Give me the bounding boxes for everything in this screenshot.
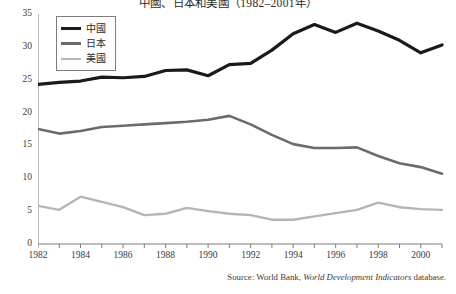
legend-item-japan: 日本 (61, 36, 110, 51)
x-tick-label: 1998 (363, 251, 393, 261)
source-prefix: Source: World Bank, (227, 272, 301, 282)
x-tick-label: 1986 (108, 251, 138, 261)
x-tick-label: 1992 (236, 251, 266, 261)
x-tick-label: 1996 (321, 251, 351, 261)
source-suffix: database. (414, 272, 446, 282)
x-tick-label: 1984 (66, 251, 96, 261)
legend-label-japan: 日本 (86, 39, 106, 49)
legend-item-usa: 美國 (61, 51, 110, 66)
legend-item-china: 中國 (61, 21, 110, 36)
legend-label-china: 中國 (86, 24, 106, 34)
x-tick-label: 2000 (406, 251, 436, 261)
chart-page: 中國、日本和美國（1982–2001年） 05101520253035 1982… (0, 0, 456, 294)
legend-label-usa: 美國 (86, 54, 106, 64)
x-tick-label: 1982 (23, 251, 53, 261)
x-tick-label: 1994 (278, 251, 308, 261)
legend-swatch-usa (61, 58, 81, 60)
source-publication: World Development Indicators (303, 272, 411, 282)
source-note: Source: World Bank, World Development In… (0, 272, 446, 282)
chart-legend: 中國 日本 美國 (56, 16, 116, 71)
x-tick-label: 1990 (193, 251, 223, 261)
legend-swatch-japan (61, 42, 81, 45)
legend-swatch-china (61, 27, 81, 30)
x-tick-label: 1988 (151, 251, 181, 261)
